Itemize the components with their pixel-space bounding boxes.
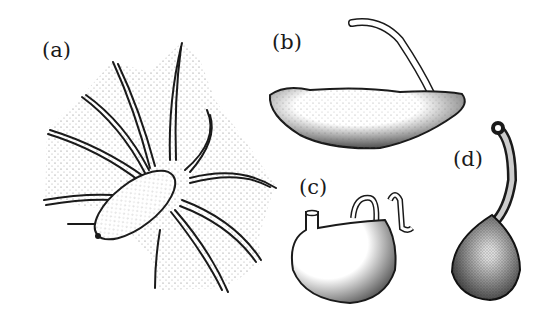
panel-label-b: (b) bbox=[272, 30, 302, 54]
panel-label-d: (d) bbox=[453, 147, 483, 171]
panel-c-drawing bbox=[292, 195, 412, 303]
panel-label-c: (c) bbox=[299, 175, 327, 199]
panel-a-drawing bbox=[44, 42, 276, 292]
panel-label-a: (a) bbox=[42, 38, 71, 62]
